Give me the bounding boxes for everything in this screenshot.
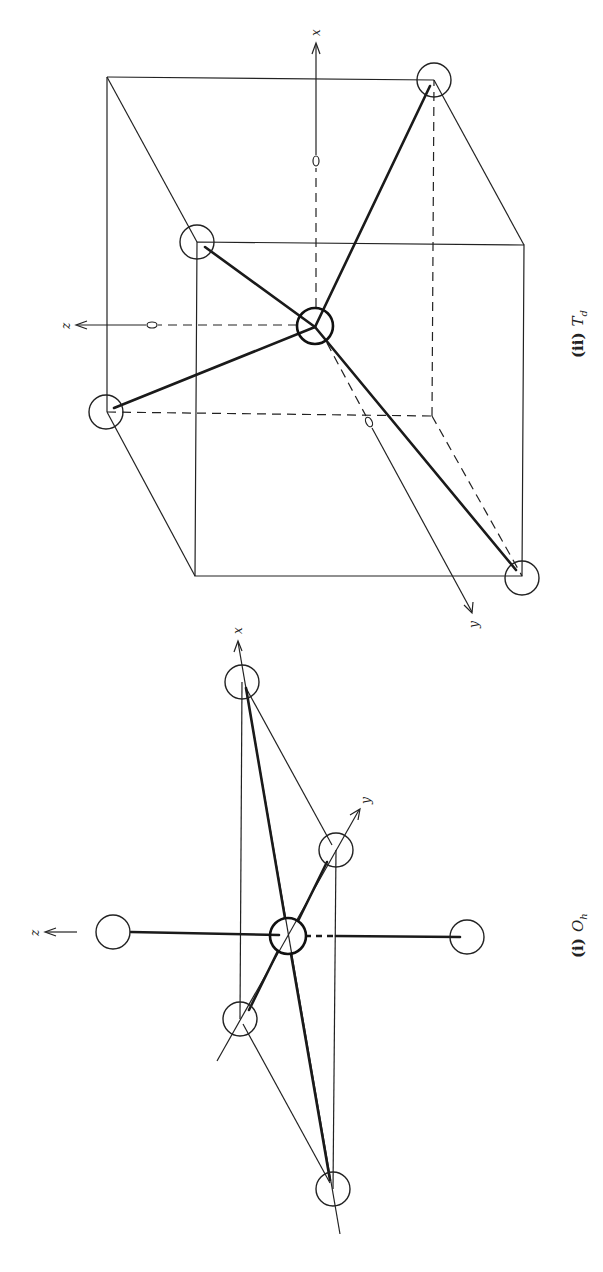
bond: [315, 327, 516, 570]
bond: [298, 862, 327, 921]
oh-z-label: z: [28, 929, 42, 937]
td-y-label: y: [467, 621, 481, 629]
y-axis-marker: [364, 416, 374, 428]
bond: [336, 936, 460, 937]
oh-panel: x y z: [28, 627, 589, 1234]
oh-caption: (i)Oh: [569, 913, 589, 958]
bond: [315, 86, 430, 327]
caption-symbol: O: [569, 920, 587, 932]
y-axis-dashed: [327, 343, 366, 416]
caption-prefix: (ii): [569, 332, 587, 358]
cube-edge: [107, 77, 197, 242]
caption-subscript: h: [578, 913, 589, 919]
bond: [205, 247, 315, 327]
cube-edge: [434, 80, 524, 245]
td-z-label: z: [59, 322, 73, 330]
x-axis-marker: [313, 156, 319, 166]
hidden-edge: [432, 80, 434, 416]
hidden-edge: [432, 416, 522, 576]
ligand-atom: [96, 915, 130, 949]
frame-edge: [240, 682, 242, 1019]
x-axis-arrowhead-icon: [234, 641, 242, 652]
ligand-atom: [89, 395, 123, 429]
cube-edge: [107, 77, 434, 80]
bond: [131, 932, 279, 935]
oh-x-label: x: [231, 627, 245, 634]
bond: [291, 954, 330, 1180]
caption-subscript: d: [578, 310, 589, 316]
td-x-label: x: [309, 29, 323, 36]
oh-bonds: [131, 688, 460, 1180]
caption-prefix: (i): [569, 938, 587, 958]
td-caption: (ii)Td: [569, 310, 589, 358]
figure-canvas: x z y: [0, 0, 603, 1272]
z-axis-marker: [147, 322, 157, 328]
cube-edge: [107, 412, 195, 576]
frame-edge: [333, 850, 336, 1189]
oh-y-label: y: [359, 797, 373, 805]
bond: [249, 951, 278, 1010]
bond: [114, 327, 315, 408]
hidden-edge: [107, 412, 432, 416]
y-axis-arrowhead-icon: [464, 602, 473, 613]
oh-axes: x y z: [28, 627, 373, 1234]
td-axes: x z y: [59, 29, 481, 629]
td-panel: x z y: [59, 29, 589, 629]
cube-front-face: [195, 242, 524, 576]
